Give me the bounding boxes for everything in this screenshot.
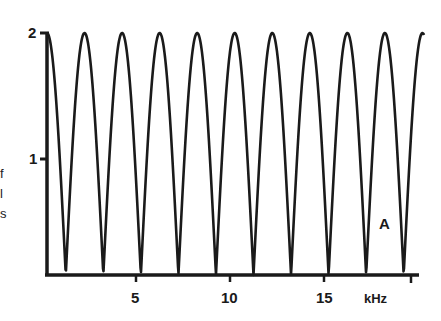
x-axis-unit-label: kHz [364, 291, 388, 306]
y-tick-label-2: 2 [28, 24, 36, 41]
panel-label: A [379, 215, 390, 232]
response-curve [47, 33, 424, 275]
x-tick-label-10: 10 [221, 289, 238, 306]
chart: 2 1 5 10 15 kHz A [0, 0, 441, 321]
y-tick-label-1: 1 [29, 150, 37, 167]
x-tick-label-15: 15 [316, 289, 333, 306]
x-tick-label-5: 5 [131, 289, 139, 306]
